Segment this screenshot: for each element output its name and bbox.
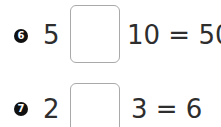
problem-number-badge: 6 [14,29,28,43]
answer-box[interactable] [70,83,120,127]
right-side-expression: 3 = 6 [131,94,202,124]
right-side-expression: 10 = 50 [127,20,221,50]
problem-number-badge: 7 [14,102,28,116]
left-operand: 5 [43,20,60,50]
left-operand: 2 [43,94,60,124]
answer-box[interactable] [70,5,120,63]
